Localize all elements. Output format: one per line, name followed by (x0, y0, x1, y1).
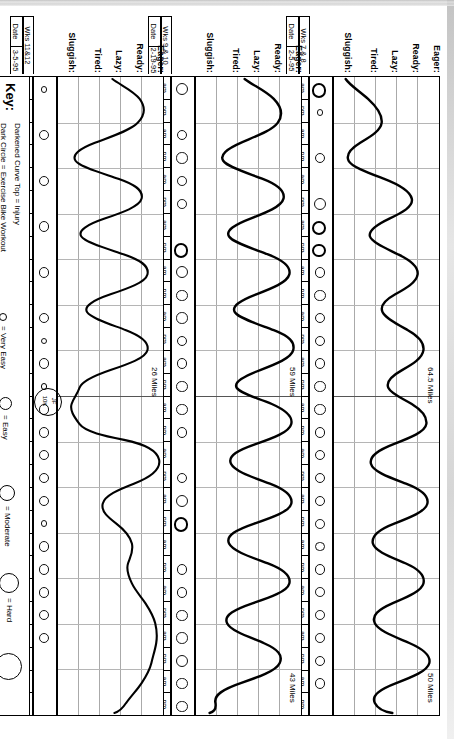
effort-circle (312, 244, 325, 257)
effort-circle (315, 358, 326, 369)
effort-circle (315, 542, 325, 552)
effort-circle (176, 701, 187, 712)
panel-3: Eager:Ready:Lazy:Tired:Sluggish:26 Miles… (30, 76, 164, 716)
panel-1: Eager:Ready:Lazy:Tired:Sluggish:64.5 Mil… (306, 76, 440, 716)
effort-circle (177, 336, 188, 347)
graph-area-3: Eager:Ready:Lazy:Tired:Sluggish:26 Miles (56, 76, 164, 716)
row-label-lazy: Lazy: (114, 50, 124, 73)
effort-circle (177, 587, 188, 598)
key-circle-4 (0, 653, 23, 680)
effort-circle (176, 83, 188, 95)
row-label-sluggish: Sluggish: (67, 32, 77, 73)
effort-circle (39, 633, 50, 644)
key-circle-1 (0, 397, 12, 410)
scan-edge-top (447, 0, 454, 739)
row-labels-2: Eager:Ready:Lazy:Tired:Sluggish: (193, 17, 301, 75)
effort-circle (39, 176, 50, 187)
effort-circle (176, 152, 187, 163)
effort-circle (176, 495, 188, 507)
effort-circle (41, 86, 48, 93)
scan-edge-left (0, 0, 454, 6)
key-circle-3 (0, 573, 19, 593)
effort-circle (174, 243, 189, 258)
effort-circle (176, 632, 187, 643)
annotation-circle-jf10k (34, 388, 62, 416)
effort-circle (177, 130, 188, 141)
key-label-0: = Very Easy (0, 326, 6, 369)
key-note-injury: Darkened Curve Top = Injury (13, 123, 22, 225)
effort-circle (315, 313, 326, 324)
row-label-tired: Tired: (93, 48, 103, 73)
effort-circle-band-1 (310, 76, 332, 716)
effort-circle (315, 610, 325, 620)
effort-circle (174, 517, 189, 532)
key-box: Key:Darkened Curve Top = InjuryDark Circ… (0, 76, 30, 716)
effort-circle (315, 267, 326, 278)
key-circle-0 (0, 313, 7, 321)
row-label-eager: Eager: (432, 45, 442, 73)
row-label-ready: Ready: (411, 43, 421, 73)
effort-circle (41, 520, 48, 527)
effort-circle (177, 564, 188, 575)
miles-week2-p1: 50 Miles (426, 673, 435, 703)
effort-circle (39, 450, 50, 461)
effort-circle (314, 381, 325, 392)
row-label-eager: Eager: (156, 45, 166, 73)
key-item-easy: = Easy (5, 397, 16, 440)
annotation-text-jf: JF (51, 388, 57, 414)
row-label-eager: Eager: (294, 45, 304, 73)
key-item-hard: = Hard (1, 573, 19, 622)
effort-circle (39, 427, 50, 438)
effort-circle (177, 427, 188, 438)
key-note-bike: Dark Circle = Exercise Bike Workout (0, 123, 8, 252)
row-label-tired: Tired: (369, 48, 379, 73)
effort-circle (176, 655, 188, 667)
effort-circle-band-3: JF10K (34, 76, 56, 716)
date-stub-3[interactable]: Date3-5-95 (10, 16, 23, 74)
row-label-lazy: Lazy: (252, 50, 262, 73)
row-label-ready: Ready: (135, 43, 145, 73)
effort-circle (314, 290, 325, 301)
effort-circle (41, 338, 48, 345)
effort-circle (39, 496, 50, 507)
effort-circle (39, 267, 50, 278)
week-stub-3[interactable]: Wks 11&12 (23, 16, 34, 74)
panel-inner-1: Eager:Ready:Lazy:Tired:Sluggish:64.5 Mil… (306, 76, 440, 716)
miles-week1-p3: 26 Miles (150, 367, 159, 397)
effort-circle (39, 130, 50, 141)
row-labels-1: Eager:Ready:Lazy:Tired:Sluggish: (331, 17, 439, 75)
key-title: Key: (3, 83, 18, 111)
effort-circle (39, 564, 50, 575)
effort-circle (39, 358, 50, 369)
miles-week1-p1: 64.5 Miles (426, 367, 435, 403)
effort-circle (176, 678, 187, 689)
row-labels-3: Eager:Ready:Lazy:Tired:Sluggish: (55, 17, 163, 75)
effort-circle (176, 381, 187, 392)
row-label-sluggish: Sluggish: (343, 32, 353, 73)
annotation-text-10k: 10K (42, 388, 48, 414)
effort-circle (176, 290, 187, 301)
energy-curve-2 (196, 77, 301, 715)
effort-circle (177, 176, 187, 186)
effort-circle (312, 83, 327, 98)
effort-circle (315, 633, 325, 643)
key-item-very-hard: = Very Hard (0, 653, 23, 715)
panel-inner-2: Eager:Ready:Lazy:Tired:Sluggish:59 Miles… (168, 76, 302, 716)
effort-circle (314, 404, 325, 415)
effort-circle (315, 564, 326, 575)
row-label-tired: Tired: (231, 48, 241, 73)
date-stub-flex: Date3-5-95 (11, 17, 22, 74)
miles-week1-p2: 59 Miles (288, 367, 297, 397)
effort-circle (177, 473, 188, 484)
row-label-sluggish: Sluggish: (205, 32, 215, 73)
effort-circle-band-2 (172, 76, 194, 716)
effort-circle (39, 587, 50, 598)
effort-circle (317, 109, 324, 116)
panel-inner-3: Eager:Ready:Lazy:Tired:Sluggish:26 Miles… (30, 76, 164, 716)
key-item-very-easy: = Very Easy (7, 313, 13, 369)
effort-circle (39, 473, 50, 484)
effort-circle (39, 610, 50, 621)
date-caption-3: Date (11, 17, 22, 47)
effort-circle (315, 153, 326, 164)
effort-circle (315, 519, 325, 529)
